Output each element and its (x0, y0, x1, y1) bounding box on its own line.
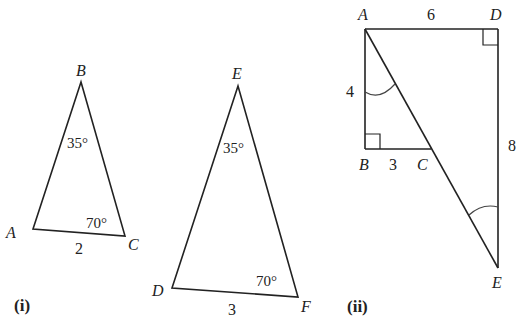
angle-label-f: 70° (256, 273, 277, 289)
side-label-ab: 4 (346, 83, 354, 100)
vertex-label-c: C (128, 236, 139, 253)
vertex-label-a2: A (357, 6, 368, 23)
side-label-ac: 2 (75, 240, 83, 257)
vertex-label-b2: B (359, 156, 369, 173)
angle-arc-e (469, 206, 498, 215)
vertex-label-f: F (300, 298, 311, 315)
vertex-label-e2: E (491, 274, 502, 291)
triangle-abc-edges (33, 82, 125, 236)
side-label-df: 3 (228, 301, 236, 318)
caption-i: (i) (14, 296, 30, 315)
geometry-diagram: B A C 35° 70° 2 E D F 35° 70° 3 (i) (0, 0, 528, 331)
angle-arc-a (365, 84, 395, 95)
vertex-label-c2: C (417, 156, 428, 173)
vertex-label-d2: D (489, 6, 502, 23)
figure-canvas: B A C 35° 70° 2 E D F 35° 70° 3 (i) (0, 0, 528, 331)
vertex-label-d: D (151, 282, 164, 299)
right-angle-marker-b (365, 134, 380, 149)
side-label-ad: 6 (427, 6, 435, 23)
triangle-def-edges (172, 86, 298, 297)
right-angle-marker-d (483, 29, 498, 45)
caption-ii: (ii) (347, 297, 368, 316)
triangle-abc: B A C 35° 70° 2 (5, 62, 139, 257)
angle-label-c: 70° (86, 215, 107, 231)
vertex-label-a: A (5, 224, 16, 241)
angle-label-b: 35° (67, 135, 88, 151)
triangle-def: E D F 35° 70° 3 (151, 65, 311, 318)
vertex-label-b: B (76, 62, 86, 79)
vertex-label-e: E (231, 65, 242, 82)
angle-label-e: 35° (223, 140, 244, 156)
figure-ii: A D B C E 6 4 3 8 (346, 6, 516, 291)
side-label-de: 8 (508, 137, 516, 154)
side-label-bc: 3 (389, 156, 397, 173)
